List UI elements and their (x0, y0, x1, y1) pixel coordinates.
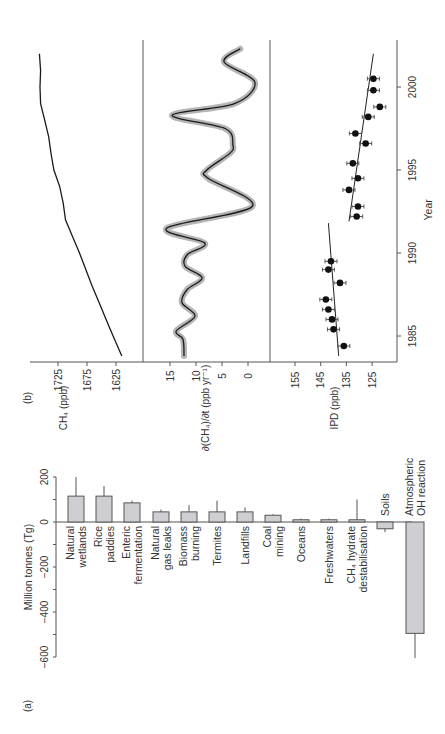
ch4-tick-label: 1675 (82, 368, 93, 391)
ipd-data-point (325, 258, 337, 265)
ipd-marker (377, 104, 384, 111)
bar-group: CH₄ hydratedestabilisation (345, 500, 369, 593)
ipd-marker (355, 203, 362, 210)
bar (293, 520, 309, 522)
bar-group: Oceans (293, 519, 309, 563)
rate-tick-label: 5 (217, 373, 228, 379)
category-label: Termites (211, 526, 223, 566)
ipd-data-point (360, 140, 372, 147)
ipd-tick-label: 125 (367, 371, 378, 388)
bar-group: Soils (377, 493, 393, 532)
bar-group: Naturalwetlands (64, 477, 88, 568)
ipd-tick-label: 145 (315, 371, 326, 388)
ipd-marker (330, 326, 337, 333)
category-label: destabilisation (357, 526, 369, 593)
bar (406, 522, 424, 633)
category-label: Freshwaters (323, 526, 335, 584)
category-label: Enteric (120, 526, 132, 559)
bar-group: AtmosphericOH reaction (403, 458, 427, 658)
ipd-data-point (322, 306, 334, 313)
ipd-axis-title: IPD (ppb) (329, 387, 340, 430)
bar (349, 520, 365, 522)
ipd-data-point (352, 203, 364, 210)
ipd-data-point (352, 175, 364, 182)
ipd-data-point (349, 130, 361, 137)
bar-group: Biomassburning (177, 505, 201, 566)
ipd-tick-label: 155 (290, 371, 301, 388)
panel-b-label: (b) (22, 392, 33, 404)
year-tick-label: 2000 (407, 75, 418, 98)
category-label: Natural (149, 526, 161, 560)
ipd-marker (365, 114, 372, 121)
category-label: fermentation (132, 526, 144, 585)
bar (209, 512, 225, 522)
panel-b-time-series: 1985199019952000Year162516751725CH₄ (ppb… (22, 40, 435, 451)
year-tick-label: 1995 (407, 158, 418, 181)
category-label: Natural (64, 526, 76, 560)
category-label: Biomass (177, 526, 189, 566)
bar (321, 520, 337, 522)
category-label: mining (273, 526, 285, 557)
category-label: Rice (92, 526, 104, 547)
rate-line (166, 49, 255, 356)
ipd-marker (362, 140, 369, 147)
ch4-tick-label: 1625 (111, 368, 122, 391)
ipd-marker (329, 316, 336, 323)
tick-label: 200 (39, 468, 50, 485)
ipd-marker (337, 280, 344, 287)
bar-group: Naturalgas leaks (149, 510, 173, 571)
methane-budget-figure: 2000−200−400−600Million tonnes (Tg)(a)Na… (0, 0, 445, 734)
ipd-data-point (351, 213, 363, 220)
bar (181, 512, 197, 522)
ipd-marker (350, 160, 357, 167)
category-label: gas leaks (161, 526, 173, 570)
ipd-marker (341, 343, 348, 350)
bar-group: Entericfermentation (120, 501, 144, 585)
bar (237, 512, 253, 522)
ipd-data-point (320, 296, 332, 303)
bar-group: Freshwaters (321, 519, 337, 584)
bar (96, 496, 112, 522)
tick-label: −600 (39, 645, 50, 668)
bar (68, 496, 84, 522)
ch4-concentration-line (39, 54, 121, 356)
value-axis-title: Million tonnes (Tg) (22, 524, 34, 610)
panel-a-bar-chart: 2000−200−400−600Million tonnes (Tg)(a)Na… (22, 458, 428, 712)
ipd-marker (353, 213, 360, 220)
ipd-trend-line (328, 223, 338, 356)
year-tick-label: 1985 (407, 324, 418, 347)
category-label: CH₄ hydrate (345, 526, 357, 584)
ipd-marker (370, 75, 377, 82)
bar (153, 512, 169, 522)
ipd-marker (355, 175, 362, 182)
ch4-axis-title: CH₄ (ppb) (58, 386, 69, 431)
category-label: Landfills (239, 526, 251, 565)
ipd-marker (325, 266, 332, 273)
panel-a-label: (a) (22, 700, 33, 712)
ipd-marker (328, 258, 335, 265)
ipd-data-point (374, 104, 386, 111)
category-label: Oceans (295, 526, 307, 562)
ipd-marker (346, 187, 353, 194)
category-label: paddies (104, 526, 116, 563)
category-label: Coal (261, 526, 273, 548)
ipd-tick-label: 135 (341, 371, 352, 388)
year-tick-label: 1990 (407, 241, 418, 264)
tick-label: 0 (39, 519, 50, 525)
tick-label: −200 (39, 555, 50, 578)
ipd-data-point (338, 343, 350, 350)
ipd-marker (325, 306, 332, 313)
bar-group: Coalmining (261, 514, 285, 557)
ipd-marker (370, 87, 377, 94)
ipd-data-point (367, 87, 379, 94)
rate-axis-title: ∂(CH₄)/∂t (ppb yr⁻¹) (200, 365, 211, 451)
bar-group: Landfills (237, 507, 253, 564)
ipd-data-point (334, 280, 346, 287)
tick-label: −400 (39, 600, 50, 623)
rate-tick-label: 0 (243, 373, 254, 379)
rate-uncertainty-band (166, 49, 255, 356)
year-axis-title: Year (422, 199, 434, 221)
category-label: burning (189, 526, 201, 561)
bar (377, 522, 393, 529)
bar-group: Termites (209, 501, 225, 566)
